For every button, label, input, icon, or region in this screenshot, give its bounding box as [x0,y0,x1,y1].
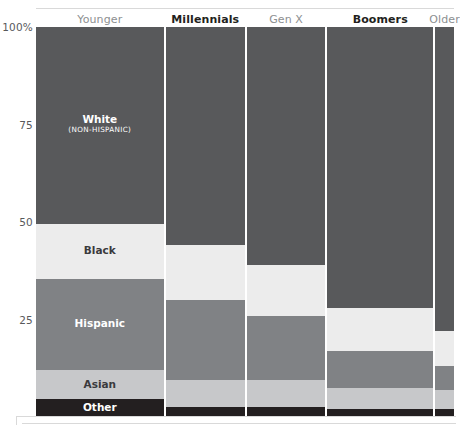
segment-hispanic-older[interactable] [435,366,454,389]
segment-label-main: Asian [84,378,117,390]
column-header-older: Older [429,13,460,26]
segment-label-asian: Asian [36,379,164,390]
y-axis-tick-label: 50 [19,216,33,228]
segment-label-main: Hispanic [75,317,126,329]
segment-asian-older[interactable] [435,390,454,410]
column-header-boomers: Boomers [327,13,433,26]
segment-label-sub: (NON-HISPANIC) [36,126,164,134]
chart-column-younger[interactable]: White(NON-HISPANIC)BlackHispanicAsianOth… [36,0,164,425]
chart-column-boomers[interactable] [327,0,433,425]
segment-white-gen-x[interactable] [247,27,325,265]
y-axis-tick-label: 100% [2,21,33,33]
chart-column-millennials[interactable] [166,0,245,425]
segment-label-other: Other [36,402,164,413]
column-header-millennials: Millennials [166,13,245,26]
segment-white-older[interactable] [435,27,454,331]
chart-column-older[interactable] [435,0,454,425]
segment-black-younger[interactable]: Black [36,224,164,279]
segment-white-millennials[interactable] [166,27,245,245]
segment-hispanic-younger[interactable]: Hispanic [36,279,164,371]
segment-label-main: Black [84,244,116,256]
segment-other-younger[interactable]: Other [36,399,164,417]
segment-white-boomers[interactable] [327,27,433,308]
column-header-gen-x: Gen X [247,13,325,26]
segment-hispanic-gen-x[interactable] [247,316,325,380]
bottom-divider-rule-2 [22,423,456,424]
column-header-younger: Younger [36,13,164,26]
segment-asian-boomers[interactable] [327,388,433,409]
segment-label-white: White(NON-HISPANIC) [36,114,164,134]
segment-asian-younger[interactable]: Asian [36,370,164,399]
segment-hispanic-boomers[interactable] [327,351,433,388]
bottom-divider-tick [16,417,17,425]
segment-black-boomers[interactable] [327,308,433,351]
segment-asian-millennials[interactable] [166,380,245,407]
segment-black-gen-x[interactable] [247,265,325,316]
segment-hispanic-millennials[interactable] [166,300,245,380]
y-axis-tick-label: 25 [19,314,33,326]
segment-label-black: Black [36,245,164,256]
bottom-divider-rule [16,416,456,417]
segment-black-millennials[interactable] [166,245,245,300]
y-axis-tick-label: 75 [19,119,33,131]
segment-asian-gen-x[interactable] [247,380,325,407]
segment-label-main: White [82,113,117,125]
segment-black-older[interactable] [435,331,454,366]
segment-label-main: Other [83,401,117,413]
chart-column-gen-x[interactable] [247,0,325,425]
segment-white-younger[interactable]: White(NON-HISPANIC) [36,27,164,224]
segment-label-hispanic: Hispanic [36,318,164,329]
